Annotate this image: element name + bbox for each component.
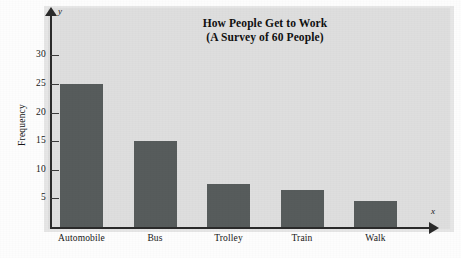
y-tick-label-text: 25: [24, 78, 46, 88]
bar-train: [281, 190, 324, 227]
x-axis-letter: x: [431, 206, 435, 216]
y-tick-mark: [50, 84, 59, 85]
y-tick-label: 20: [24, 107, 46, 118]
y-tick-label-text: 10: [24, 164, 46, 174]
x-category-label: Walk: [331, 233, 421, 243]
bar-trolley: [207, 184, 250, 227]
y-axis-letter: y: [58, 6, 62, 16]
chart-title: How People Get to Work (A Survey of 60 P…: [150, 16, 380, 44]
y-tick-label: 15: [24, 135, 46, 146]
x-axis-line: [50, 227, 431, 229]
y-tick-label: 5: [24, 192, 46, 203]
y-tick-label-text: 5: [24, 192, 46, 202]
y-axis-title: Frequency: [17, 85, 27, 165]
chart-screenshot: How People Get to Work (A Survey of 60 P…: [0, 0, 461, 258]
x-axis-arrow-icon: [429, 222, 439, 234]
y-tick-mark: [50, 55, 59, 56]
y-tick-mark: [50, 170, 59, 171]
y-tick-label: 30: [24, 49, 46, 60]
y-tick-mark: [50, 113, 59, 114]
y-axis-line: [50, 14, 52, 229]
y-tick-label-text: 20: [24, 107, 46, 117]
bar-automobile: [60, 84, 103, 227]
y-tick-label: 25: [24, 78, 46, 89]
y-tick-label-text: 30: [24, 49, 46, 59]
bar-walk: [354, 201, 397, 227]
y-tick-label-text: 15: [24, 135, 46, 145]
y-tick-mark: [50, 198, 59, 199]
y-tick-mark: [50, 141, 59, 142]
y-tick-label: 10: [24, 164, 46, 175]
chart-title-line2: (A Survey of 60 People): [150, 30, 380, 44]
y-axis-arrow-icon: [45, 7, 57, 16]
bar-bus: [134, 141, 177, 227]
chart-title-line1: How People Get to Work: [150, 16, 380, 30]
